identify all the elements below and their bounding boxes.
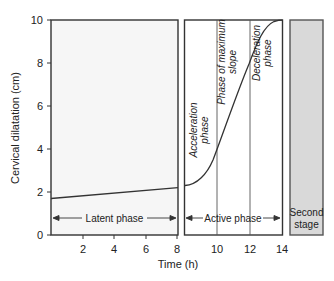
x-tick-2: 2 <box>80 243 86 255</box>
svg-text:phase: phase <box>199 116 210 145</box>
y-tick-2: 2 <box>37 186 43 198</box>
svg-text:Phase of maximum: Phase of maximum <box>216 19 227 105</box>
svg-text:Deceleration: Deceleration <box>251 24 262 81</box>
svg-text:phase: phase <box>262 39 273 68</box>
x-tick-4: 4 <box>111 243 117 255</box>
latent-panel <box>51 20 178 235</box>
x-tick-labels: 2 4 6 8 10 12 14 <box>80 243 288 255</box>
x-tick-12: 12 <box>244 243 256 255</box>
y-tick-8: 8 <box>37 57 43 69</box>
y-axis-label: Cervical dilatation (cm) <box>9 72 21 184</box>
y-tick-labels: 0 2 4 6 8 10 <box>31 14 43 241</box>
x-tick-6: 6 <box>143 243 149 255</box>
y-tick-0: 0 <box>37 229 43 241</box>
second-stage-panel <box>290 20 323 235</box>
x-tick-8: 8 <box>174 243 180 255</box>
x-tick-10: 10 <box>211 243 223 255</box>
y-tick-10: 10 <box>31 14 43 26</box>
x-axis-label: Time (h) <box>158 258 199 270</box>
second-stage-label-line2: stage <box>294 219 319 230</box>
second-stage-label-line1: Second <box>290 207 324 218</box>
y-tick-6: 6 <box>37 100 43 112</box>
active-phase-label: Active phase <box>204 213 262 224</box>
y-tick-4: 4 <box>37 143 43 155</box>
x-tick-14: 14 <box>276 243 288 255</box>
labor-curve-chart: 0 2 4 6 8 10 2 4 6 8 10 12 14 Time (h) C… <box>0 0 334 281</box>
latent-phase-label: Latent phase <box>86 213 144 224</box>
svg-text:Acceleration: Acceleration <box>188 102 199 158</box>
svg-text:slope: slope <box>227 50 238 74</box>
